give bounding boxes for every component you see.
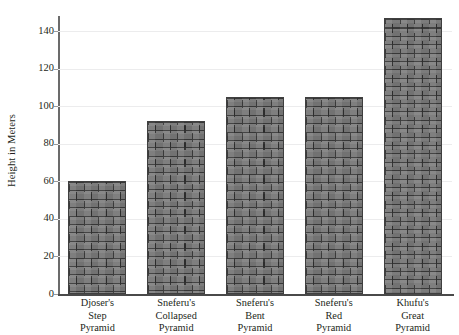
bar <box>305 97 363 294</box>
brick-texture <box>148 122 204 293</box>
x-axis-category-label: Djoser's Step Pyramid <box>58 297 137 335</box>
y-axis-tick-mark <box>54 181 58 182</box>
x-axis-category-label: Sneferu's Bent Pyramid <box>216 297 295 335</box>
y-axis-title: Height in Meters <box>0 0 22 300</box>
x-axis-category-label: Sneferu's Red Pyramid <box>294 297 373 335</box>
brick-texture <box>385 19 441 293</box>
y-axis-tick-label: 0 <box>24 289 54 300</box>
y-axis-tick-label: 40 <box>24 213 54 224</box>
y-axis-title-text: Height in Meters <box>6 114 17 187</box>
y-axis-tick-mark <box>54 256 58 257</box>
y-axis-tick-mark <box>54 31 58 32</box>
bar <box>68 181 126 294</box>
y-axis-tick-mark <box>54 106 58 107</box>
x-axis-category-label: Khufu's Great Pyramid <box>373 297 452 335</box>
brick-texture <box>306 98 362 293</box>
y-axis-tick-label: 20 <box>24 251 54 262</box>
y-axis-tick-mark <box>54 219 58 220</box>
y-axis-tick-label: 80 <box>24 138 54 149</box>
y-axis-tick-label: 60 <box>24 176 54 187</box>
bar <box>384 18 442 294</box>
y-axis-tick-mark <box>54 69 58 70</box>
y-axis-tick-mark <box>54 294 58 295</box>
y-axis-tick-label: 100 <box>24 101 54 112</box>
x-axis-category-labels: Djoser's Step PyramidSneferu's Collapsed… <box>58 297 454 326</box>
x-axis-line <box>58 294 454 296</box>
brick-texture <box>69 182 125 293</box>
plot-area <box>58 16 452 294</box>
bar <box>147 121 205 294</box>
y-axis-tick-labels: 140120100806040200 <box>22 16 54 295</box>
y-axis-tick-label: 120 <box>24 63 54 74</box>
bar <box>226 97 284 294</box>
y-axis-tick-mark <box>54 144 58 145</box>
x-axis-category-label: Sneferu's Collapsed Pyramid <box>137 297 216 335</box>
y-axis-tick-label: 140 <box>24 26 54 37</box>
brick-texture <box>227 98 283 293</box>
